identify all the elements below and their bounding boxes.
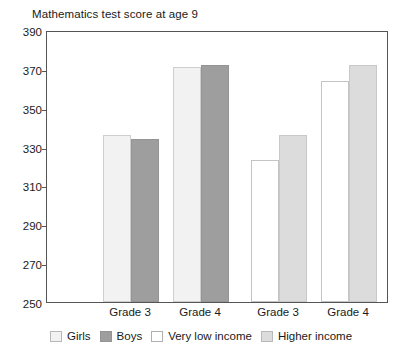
- legend-item: Very low income: [151, 330, 252, 342]
- chart-legend: GirlsBoysVery low incomeHigher income: [0, 330, 402, 342]
- bar: [349, 65, 377, 302]
- plot-area: 390370350330310290270250: [46, 31, 388, 303]
- chart-figure: Mathematics test score at age 9 39037035…: [0, 0, 402, 353]
- bar: [321, 81, 349, 302]
- x-axis-labels: Grade 3Grade 4Grade 3Grade 4: [46, 306, 388, 322]
- legend-swatch: [151, 331, 163, 342]
- bar-series-container: [47, 32, 387, 302]
- y-axis-tick-label: 310: [23, 181, 42, 193]
- y-axis-tick-label: 270: [23, 259, 42, 271]
- legend-item: Boys: [100, 330, 143, 342]
- legend-item: Higher income: [261, 330, 352, 342]
- bar: [173, 67, 201, 302]
- legend-label: Boys: [117, 330, 143, 342]
- x-axis-group-label: Grade 4: [179, 306, 221, 318]
- x-axis-group-label: Grade 3: [257, 306, 299, 318]
- legend-label: Girls: [67, 330, 91, 342]
- bar: [131, 139, 159, 302]
- legend-item: Girls: [50, 330, 91, 342]
- x-axis-group-label: Grade 4: [327, 306, 369, 318]
- legend-swatch: [100, 331, 112, 342]
- bar: [251, 160, 279, 302]
- bar: [103, 135, 131, 302]
- legend-label: Higher income: [278, 330, 352, 342]
- chart-title: Mathematics test score at age 9: [32, 8, 198, 20]
- y-axis-tick-label: 390: [23, 26, 42, 38]
- y-axis-tick-label: 350: [23, 104, 42, 116]
- legend-swatch: [50, 331, 62, 342]
- legend-label: Very low income: [168, 330, 252, 342]
- y-axis-tick-label: 370: [23, 65, 42, 77]
- y-axis-tick-label: 290: [23, 220, 42, 232]
- x-axis-group-label: Grade 3: [109, 306, 151, 318]
- bar: [201, 65, 229, 302]
- bar: [279, 135, 307, 302]
- y-axis-tick-label: 330: [23, 143, 42, 155]
- y-axis-tick-label: 250: [23, 298, 42, 310]
- legend-swatch: [261, 331, 273, 342]
